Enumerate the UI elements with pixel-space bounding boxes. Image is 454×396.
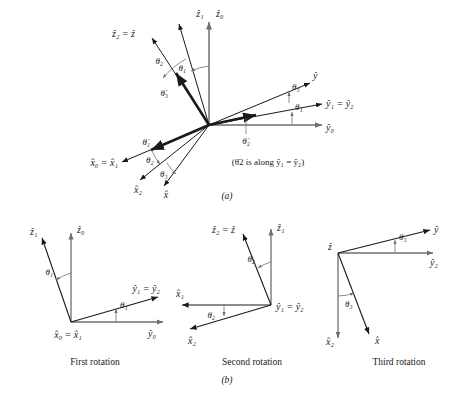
panel-b-first-rotation: ẑ₁ ẑ₀ θ₁ ŷ₁ = ŷ₂ θ₁ x̂₀ = x̂₁ ŷ₀ First r… (29, 224, 163, 367)
label-z1-a: ẑ₁ (195, 8, 203, 19)
label-x2-a: x̂₂ (133, 184, 142, 195)
label-y-a: ŷ (312, 70, 318, 81)
label-z0-a: ẑ₀ (215, 8, 224, 19)
label-z0-b1: ẑ₀ (76, 224, 85, 235)
caption-second-rotation: Second rotation (222, 357, 282, 367)
panel-b-second-rotation: ẑ₂ = ẑ ẑ₁ θ₂ x̂₁ θ₂ ŷ₁ = ŷ₂ x̂₂ Second r… (175, 222, 304, 367)
label-theta1-dot-a: θ̇₁ (142, 137, 150, 147)
panel-b-third-rotation: ẑ ŷ θ₃ ŷ₂ θ₃ x̂₂ x̂ Third rotation (325, 224, 439, 367)
rotation-sequence-figure: ẑ₁ ẑ₀ ẑ₂ = ẑ θ₁ θ₂ θ̇₃ ŷ ŷ₁ = ŷ₂ ŷ₀ θ₃ θ… (0, 0, 454, 396)
label-z1-b1: ẑ₁ (29, 226, 37, 237)
label-y0-a: ŷ₀ (325, 122, 334, 133)
axis-y-b3 (338, 230, 430, 253)
figure-canvas: ẑ₁ ẑ₀ ẑ₂ = ẑ θ₁ θ₂ θ̇₃ ŷ ŷ₁ = ŷ₂ ŷ₀ θ₃ θ… (0, 0, 454, 396)
label-y1-b2: ŷ₁ = ŷ₂ (275, 301, 304, 312)
rate-theta2-dot-a (209, 115, 256, 125)
axis-z2-b2 (243, 234, 271, 305)
label-z-b3: ẑ (327, 241, 332, 252)
label-x0-a: x̂₀ = x̂₁ (89, 157, 118, 168)
label-z2-a: ẑ₂ = ẑ (111, 28, 135, 39)
label-theta1-top-a: θ₁ (178, 63, 186, 73)
panel-a: ẑ₁ ẑ₀ ẑ₂ = ẑ θ₁ θ₂ θ̇₃ ŷ ŷ₁ = ŷ₂ ŷ₀ θ₃ θ… (89, 8, 354, 202)
label-y0-b1: ŷ₀ (147, 328, 156, 339)
label-theta2-bottom-b2: θ₂ (207, 310, 215, 320)
arc-theta1-top-a (191, 66, 209, 71)
label-z1-b2: ẑ₁ (276, 222, 284, 233)
label-y-b3: ŷ (433, 224, 439, 235)
label-theta3-top-b3: θ₃ (399, 232, 407, 242)
label-x2-b3: x̂₂ (325, 336, 334, 347)
axis-z1-a (179, 24, 209, 125)
label-y1-a: ŷ₁ = ŷ₂ (325, 98, 354, 109)
rate-theta3-dot-a (176, 73, 209, 125)
caption-third-rotation: Third rotation (372, 357, 425, 367)
label-theta3-bottom-a: θ₃ (160, 169, 168, 179)
label-theta2-top-a: θ₂ (155, 56, 163, 66)
axis-x2-b2 (190, 305, 271, 329)
panel-b-caption: (b) (221, 375, 232, 386)
caption-first-rotation: First rotation (70, 357, 120, 367)
label-theta3-bottom-b3: θ₃ (345, 299, 353, 309)
label-x0-b1: x̂₀ = x̂₁ (53, 329, 82, 340)
arc-theta2-top-b2 (258, 262, 271, 268)
arc-theta1-top-b1 (56, 273, 71, 280)
label-theta2-bottom-a: θ₂ (146, 155, 154, 165)
label-y2-b3: ŷ₂ (429, 257, 438, 268)
label-theta1-top-b1: θ₁ (45, 267, 53, 277)
label-x-b3: x̂ (374, 335, 380, 346)
label-z2-b2: ẑ₂ = ẑ (211, 224, 235, 235)
label-theta2-top-b2: θ₂ (247, 254, 255, 264)
label-x-a: x̂ (163, 189, 169, 200)
label-theta3-dot-a: θ̇₃ (160, 88, 168, 98)
axis-y1-b1 (71, 297, 158, 322)
label-theta3-right-a: θ₃ (292, 82, 300, 92)
panel-a-caption: (a) (221, 191, 232, 202)
label-theta1-bottom-b1: θ₁ (120, 300, 128, 310)
label-theta2-dot-a: θ̇₂ (242, 136, 250, 146)
label-theta1-right-a: θ₁ (295, 102, 303, 112)
arc-theta3-bottom-b3 (338, 293, 354, 296)
note-theta2-along-y: (θ̇2 is along ŷ₁ = ŷ₂) (232, 157, 304, 167)
label-x1-b2: x̂₁ (175, 288, 184, 299)
label-x2-b2: x̂₂ (187, 335, 196, 346)
arc-theta3-bottom-a (167, 163, 176, 174)
label-y1-b1: ŷ₁ = ŷ₂ (131, 283, 160, 294)
